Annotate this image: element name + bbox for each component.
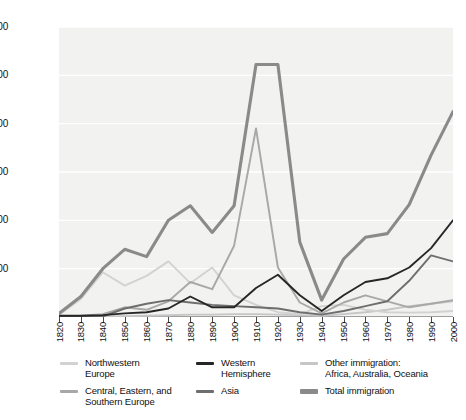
y-axis-tick-label: 200 bbox=[0, 269, 8, 280]
legend-swatch bbox=[60, 390, 78, 393]
x-axis-tick-mark bbox=[81, 317, 82, 322]
x-axis-tick-label: 1940 bbox=[315, 322, 329, 344]
legend-swatch bbox=[300, 389, 318, 394]
x-axis-tick-mark bbox=[278, 317, 279, 322]
x-axis-tick-label: 1920 bbox=[271, 322, 285, 344]
x-axis-tick-mark bbox=[322, 317, 323, 322]
plot-container: Immigrants per decade (thousands) 1,2001… bbox=[0, 0, 466, 352]
x-axis-tick-mark bbox=[409, 317, 410, 322]
x-axis-tick-label: 1840 bbox=[96, 322, 110, 344]
x-axis-tick-mark bbox=[256, 317, 257, 322]
y-axis-tick-label: 400 bbox=[0, 220, 8, 231]
x-axis-tick-label: 1950 bbox=[337, 322, 351, 344]
legend-swatch bbox=[300, 362, 318, 365]
legend-label: Asia bbox=[221, 385, 239, 396]
chart-plot-lines bbox=[59, 27, 453, 317]
x-axis-tick-label: 1930 bbox=[293, 322, 307, 344]
x-axis-tick-label: 1820 bbox=[52, 322, 66, 344]
x-axis-tick-mark bbox=[190, 317, 191, 322]
x-axis-tick-label: 1860 bbox=[140, 322, 154, 344]
chart-figure: Immigrants per decade (thousands) 1,2001… bbox=[0, 0, 466, 420]
x-axis-tick-mark bbox=[300, 317, 301, 322]
x-axis-tick-mark bbox=[125, 317, 126, 322]
x-axis-tick-label: 1830 bbox=[74, 322, 88, 344]
x-axis-tick-mark bbox=[387, 317, 388, 322]
x-axis-tick-mark bbox=[431, 317, 432, 322]
x-axis-tick-mark bbox=[147, 317, 148, 322]
chart-legend: Northwestern EuropeCentral, Eastern, and… bbox=[0, 355, 466, 417]
legend-item: Total immigration bbox=[300, 385, 394, 396]
x-axis-tick-mark bbox=[59, 317, 60, 322]
y-axis-tick-label: 1,000 bbox=[0, 75, 8, 86]
legend-label: Northwestern Europe bbox=[85, 357, 140, 379]
x-axis-tick-label: 1900 bbox=[227, 322, 241, 344]
legend-swatch bbox=[60, 362, 78, 365]
legend-item: Northwestern Europe bbox=[60, 357, 140, 379]
y-axis-tick-label: 800 bbox=[0, 124, 8, 135]
x-axis-tick-label: 1870 bbox=[161, 322, 175, 344]
y-axis-tick-label: 600 bbox=[0, 172, 8, 183]
legend-item: Western Hemisphere bbox=[196, 357, 271, 379]
legend-label: Western Hemisphere bbox=[221, 357, 271, 379]
x-axis-tick-label: 1960 bbox=[358, 322, 372, 344]
x-axis-tick-mark bbox=[365, 317, 366, 322]
x-axis-tick-mark bbox=[103, 317, 104, 322]
series-line bbox=[59, 255, 453, 316]
legend-item: Other immigration: Africa, Australia, Oc… bbox=[300, 357, 428, 379]
legend-label: Other immigration: Africa, Australia, Oc… bbox=[325, 357, 428, 379]
legend-label: Total immigration bbox=[325, 385, 394, 396]
x-axis-tick-label: 1910 bbox=[249, 322, 263, 344]
x-axis-tick-mark bbox=[212, 317, 213, 322]
x-axis-tick-label: 1990 bbox=[424, 322, 438, 344]
legend-item: Central, Eastern, and Southern Europe bbox=[60, 385, 172, 407]
x-axis-tick-label: 1970 bbox=[380, 322, 394, 344]
legend-swatch bbox=[196, 362, 214, 365]
x-axis-tick-mark bbox=[168, 317, 169, 322]
legend-label: Central, Eastern, and Southern Europe bbox=[85, 385, 172, 407]
x-axis-tick-label: 1890 bbox=[205, 322, 219, 344]
x-axis-tick-mark bbox=[453, 317, 454, 322]
legend-swatch bbox=[196, 390, 214, 393]
x-axis-tick-label: 2000 bbox=[446, 322, 460, 344]
x-axis-tick-label: 1980 bbox=[402, 322, 416, 344]
x-axis-tick-label: 1880 bbox=[183, 322, 197, 344]
legend-item: Asia bbox=[196, 385, 239, 396]
x-axis-tick-label: 1850 bbox=[118, 322, 132, 344]
x-axis-tick-mark bbox=[344, 317, 345, 322]
y-axis-tick-label: 1,200 bbox=[0, 27, 8, 38]
x-axis-tick-mark bbox=[234, 317, 235, 322]
